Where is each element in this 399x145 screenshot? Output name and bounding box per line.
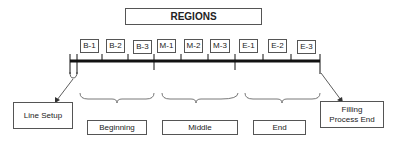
segment-m-3: M-3: [210, 39, 230, 53]
phase-end: End: [253, 120, 306, 135]
segment-e-2: E-2: [268, 39, 287, 53]
segment-b-3: B-3: [133, 40, 152, 54]
line-setup-box: Line Setup: [13, 102, 73, 129]
segment-e-3: E-3: [297, 40, 316, 54]
filling-process-end-box: Filling Process End: [320, 101, 384, 128]
end-label-line-1: Filling: [342, 105, 363, 115]
phase-beginning: Beginning: [87, 120, 147, 135]
segment-b-2: B-2: [106, 39, 125, 53]
phase-middle: Middle: [162, 120, 238, 135]
segment-e-1: E-1: [239, 39, 258, 53]
segment-m-2: M-2: [184, 39, 203, 53]
end-label-line-2: Process End: [329, 115, 374, 125]
segment-m-1: M-1: [157, 39, 176, 53]
segment-b-1: B-1: [80, 39, 99, 53]
regions-title: REGIONS: [125, 8, 262, 25]
